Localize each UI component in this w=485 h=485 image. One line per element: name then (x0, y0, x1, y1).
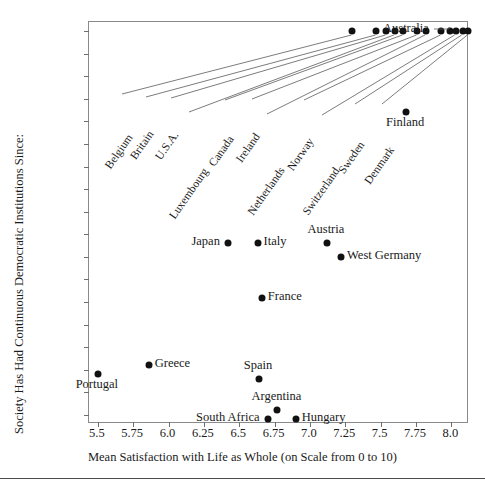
y-tick (84, 167, 89, 168)
y-tick (84, 257, 89, 258)
data-point[interactable] (349, 28, 356, 35)
y-tick (84, 347, 89, 348)
data-point[interactable] (145, 362, 152, 369)
x-tick-label: 7.75 (404, 427, 426, 439)
point-label-japan: Japan (191, 235, 219, 248)
scatter-plot-figure: Society Has Had Continuous Democratic In… (0, 0, 485, 485)
plot-area (88, 21, 468, 423)
x-tick-label: 5.75 (121, 427, 143, 439)
point-label-france: France (268, 290, 302, 303)
data-point[interactable] (264, 416, 271, 423)
data-point[interactable] (465, 28, 472, 35)
point-label-austria: Austria (307, 223, 344, 236)
y-tick (84, 415, 89, 416)
point-label-spain: Spain (244, 359, 272, 372)
point-label-hungary: Hungary (302, 411, 346, 424)
y-tick (84, 99, 89, 100)
point-label-italy: Italy (264, 235, 287, 248)
data-point[interactable] (438, 28, 445, 35)
point-label-portugal: Portugal (76, 378, 118, 391)
y-tick (84, 392, 89, 393)
data-point[interactable] (452, 28, 459, 35)
y-tick (84, 54, 89, 55)
data-point[interactable] (254, 240, 261, 247)
y-tick (84, 302, 89, 303)
y-tick (84, 31, 89, 32)
x-axis-title: Mean Satisfaction with Life as Whole (on… (0, 450, 485, 465)
y-axis-title: Society Has Had Continuous Democratic In… (12, 0, 27, 434)
data-point[interactable] (224, 240, 231, 247)
point-label-west-germany: West Germany (347, 249, 421, 262)
bottom-rule (0, 478, 485, 479)
data-point[interactable] (338, 253, 345, 260)
x-tick-label: 7.5 (372, 427, 388, 439)
y-tick (84, 189, 89, 190)
data-point[interactable] (292, 416, 299, 423)
data-point[interactable] (274, 407, 281, 414)
data-point[interactable] (258, 294, 265, 301)
point-label-australia: Australia (383, 22, 429, 35)
y-tick (84, 144, 89, 145)
point-label-argentina: Argentina (252, 390, 302, 403)
y-tick (84, 279, 89, 280)
data-point[interactable] (323, 240, 330, 247)
data-point[interactable] (256, 375, 263, 382)
y-tick (84, 234, 89, 235)
point-label-greece: Greece (155, 357, 190, 370)
y-tick (84, 370, 89, 371)
x-tick-label: 5.5 (89, 427, 105, 439)
point-label-finland: Finland (386, 116, 424, 129)
y-tick (84, 76, 89, 77)
x-tick-label: 6.75 (263, 427, 285, 439)
x-tick-label: 8.0 (443, 427, 459, 439)
x-tick-label: 6.5 (230, 427, 246, 439)
point-label-south-africa: South Africa (196, 411, 260, 424)
y-tick (84, 325, 89, 326)
x-tick-label: 6.0 (160, 427, 176, 439)
x-tick-label: 7.25 (333, 427, 355, 439)
y-tick (84, 212, 89, 213)
data-point[interactable] (373, 28, 380, 35)
x-tick-label: 6.25 (192, 427, 214, 439)
y-tick (84, 121, 89, 122)
x-tick-label: 7.0 (301, 427, 317, 439)
